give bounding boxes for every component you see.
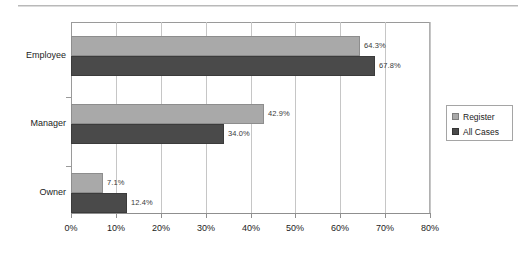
x-axis-tick xyxy=(116,213,117,218)
chart-legend: Register All Cases xyxy=(446,105,513,141)
x-axis-tick-label: 50% xyxy=(275,223,315,233)
x-axis-tick-label: 30% xyxy=(186,223,226,233)
x-axis-tick-label: 60% xyxy=(320,223,360,233)
x-axis-tick xyxy=(161,213,162,218)
legend-item-register: Register xyxy=(452,110,508,123)
bar-value-label: 42.9% xyxy=(268,109,290,118)
x-axis-tick xyxy=(295,213,296,218)
legend-item-all-cases: All Cases xyxy=(452,125,508,138)
bar-employee-all-cases xyxy=(71,56,375,76)
legend-label-all-cases: All Cases xyxy=(463,127,499,137)
bar-value-label: 34.0% xyxy=(228,129,250,138)
bar-owner-register xyxy=(71,173,103,193)
y-axis-tick xyxy=(66,166,72,167)
category-label-wrap: Owner xyxy=(0,187,66,199)
x-axis-tick-label: 80% xyxy=(410,223,450,233)
x-axis-tick-label: 0% xyxy=(51,223,91,233)
legend-label-register: Register xyxy=(463,112,495,122)
bar-value-label: 64.3% xyxy=(364,41,386,50)
bar-manager-all-cases xyxy=(71,124,224,144)
x-axis-tick xyxy=(385,213,386,218)
x-axis-tick xyxy=(340,213,341,218)
x-axis-tick-label: 10% xyxy=(96,223,136,233)
bar-manager-register xyxy=(71,104,264,124)
x-axis-tick xyxy=(71,213,72,218)
x-axis-tick xyxy=(206,213,207,218)
bar-employee-register xyxy=(71,36,360,56)
gridline xyxy=(430,22,431,213)
bar-value-label: 12.4% xyxy=(131,198,153,207)
scan-artifact-line-secondary xyxy=(18,6,518,7)
y-axis-tick xyxy=(66,97,72,98)
x-axis-tick-label: 20% xyxy=(141,223,181,233)
bar-owner-all-cases xyxy=(71,193,127,213)
gridline xyxy=(385,22,386,213)
category-label-employee: Employee xyxy=(26,50,66,60)
bar-chart: 64.3%67.8%42.9%34.0%7.1%12.4% EmployeeMa… xyxy=(0,0,526,258)
category-label-owner: Owner xyxy=(39,187,66,197)
legend-swatch-register-icon xyxy=(452,113,459,120)
bar-value-label: 67.8% xyxy=(379,61,401,70)
category-label-wrap: Employee xyxy=(0,50,66,62)
x-axis-tick xyxy=(430,213,431,218)
category-label-wrap: Manager xyxy=(0,118,66,130)
x-axis-tick-label: 40% xyxy=(231,223,271,233)
legend-swatch-all-cases-icon xyxy=(452,128,459,135)
x-axis-tick-label: 70% xyxy=(365,223,405,233)
category-label-manager: Manager xyxy=(30,118,66,128)
x-axis-tick xyxy=(251,213,252,218)
bar-value-label: 7.1% xyxy=(107,178,125,187)
